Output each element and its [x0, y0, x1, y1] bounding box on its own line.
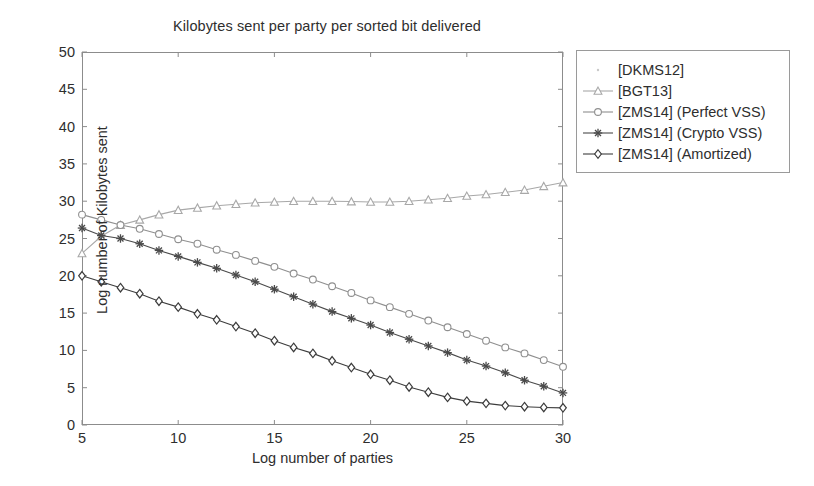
legend-item[interactable]: [DKMS12]: [581, 59, 783, 80]
x-tick-label: 30: [555, 430, 571, 446]
x-tick-label: 5: [78, 430, 86, 446]
asterisk-marker: [482, 362, 491, 371]
asterisk-marker: [443, 348, 452, 357]
asterisk-marker: [251, 278, 260, 287]
asterisk-marker: [594, 128, 603, 137]
series-line: [82, 215, 563, 367]
asterisk-marker: [174, 252, 183, 260]
series-line: [82, 228, 563, 393]
circle-marker: [367, 297, 374, 304]
legend-label: [ZMS14] (Crypto VSS): [618, 125, 762, 141]
circle-marker: [425, 317, 432, 324]
diamond-marker: [194, 310, 201, 319]
diamond-icon: [581, 146, 615, 162]
circle-marker: [521, 350, 528, 357]
y-tick-label: 25: [59, 231, 75, 247]
diamond-marker: [444, 393, 451, 402]
asterisk-marker: [270, 285, 279, 294]
diamond-marker: [406, 383, 413, 392]
circle-marker: [595, 108, 602, 115]
asterisk-marker: [328, 307, 337, 316]
circle-marker: [233, 252, 240, 259]
chart-figure: Kilobytes sent per party per sorted bit …: [0, 0, 814, 486]
asterisk-marker: [78, 224, 87, 233]
diamond-marker: [213, 316, 220, 325]
circle-marker: [348, 290, 355, 297]
circle-marker: [194, 240, 201, 247]
diamond-marker: [271, 336, 278, 345]
circle-marker: [560, 363, 567, 370]
circle-marker: [79, 211, 86, 218]
diamond-marker: [540, 403, 547, 412]
y-tick-label: 40: [59, 119, 75, 135]
legend-label: [ZMS14] (Amortized): [618, 146, 752, 162]
chart-legend: [DKMS12][BGT13][ZMS14] (Perfect VSS)[ZMS…: [576, 50, 790, 173]
series-2: [79, 211, 567, 370]
circle-marker: [502, 344, 509, 351]
diamond-marker: [560, 404, 567, 413]
plot-canvas: [82, 52, 563, 425]
diamond-marker: [425, 388, 432, 397]
legend-item[interactable]: [BGT13]: [581, 80, 783, 101]
circle-marker: [463, 331, 470, 338]
circle-marker: [136, 225, 143, 232]
series-layer: [78, 179, 568, 412]
diamond-marker: [175, 303, 182, 311]
diamond-marker: [387, 376, 394, 385]
series-1: [78, 179, 567, 257]
series-3: [78, 224, 568, 397]
circle-marker: [329, 283, 336, 290]
diamond-marker: [136, 289, 143, 298]
asterisk-marker: [559, 389, 568, 398]
y-axis-label: Log number of Kilobytes sent: [94, 50, 110, 390]
legend-label: [DKMS12]: [618, 62, 684, 78]
diamond-marker: [252, 329, 259, 338]
asterisk-marker: [155, 246, 164, 255]
circle-marker: [252, 257, 259, 264]
asterisk-marker: [540, 382, 549, 391]
asterisk-icon: [581, 125, 615, 141]
circle-marker: [156, 231, 163, 238]
asterisk-marker: [520, 376, 529, 385]
asterisk-marker: [212, 264, 221, 273]
circle-marker: [540, 357, 547, 364]
y-tick-label: 0: [67, 417, 75, 433]
series-4: [79, 272, 567, 413]
circle-marker: [444, 324, 451, 331]
diamond-marker: [79, 272, 86, 281]
y-tick-label: 35: [59, 156, 75, 172]
diamond-marker: [290, 343, 297, 352]
legend-item[interactable]: [ZMS14] (Amortized): [581, 143, 783, 164]
tick-marks: [82, 52, 563, 425]
y-tick-label: 45: [59, 81, 75, 97]
asterisk-marker: [405, 335, 414, 344]
legend-label: [ZMS14] (Perfect VSS): [618, 104, 765, 120]
diamond-marker: [310, 349, 317, 358]
x-tick-label: 20: [363, 430, 379, 446]
dot-marker: [597, 68, 599, 70]
diamond-marker: [463, 397, 470, 406]
axis-frame: [83, 53, 563, 425]
chart-title: Kilobytes sent per party per sorted bit …: [82, 18, 572, 34]
dot-icon: [581, 62, 615, 78]
asterisk-marker: [193, 258, 202, 267]
legend-item[interactable]: [ZMS14] (Perfect VSS): [581, 101, 783, 122]
asterisk-marker: [463, 356, 472, 365]
circle-marker: [309, 276, 316, 283]
diamond-marker: [233, 322, 240, 331]
diamond-marker: [595, 149, 602, 158]
circle-marker: [117, 222, 124, 229]
circle-marker: [406, 310, 413, 317]
diamond-marker: [367, 370, 374, 379]
x-tick-label: 25: [459, 430, 475, 446]
diamond-marker: [521, 402, 528, 411]
circle-marker: [483, 337, 490, 344]
y-tick-label: 10: [59, 342, 75, 358]
legend-label: [BGT13]: [618, 83, 672, 99]
plot-area: 05101520253035404550 51015202530 Log num…: [82, 52, 563, 425]
triangle-icon: [581, 83, 615, 99]
circle-icon: [581, 104, 615, 120]
asterisk-marker: [116, 234, 125, 243]
y-tick-label: 5: [67, 380, 75, 396]
legend-item[interactable]: [ZMS14] (Crypto VSS): [581, 122, 783, 143]
